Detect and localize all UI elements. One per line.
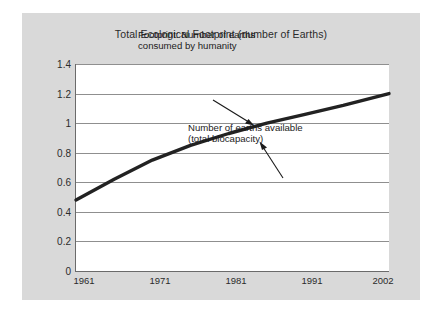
- biocapacity-annotation-arrow: [260, 142, 284, 179]
- ytick-label-0-8: 0.8: [57, 147, 71, 158]
- xtick-label-1991: 1991: [301, 275, 322, 286]
- footprint-curve: [76, 94, 389, 200]
- ytick-label-1-4: 1.4: [57, 59, 71, 70]
- chart-figure: Total Ecological Footprint (number of Ea…: [0, 0, 445, 314]
- plot-area: 1.4 1.2 1 0.8 0.6 0.4 0.2 0: [75, 64, 389, 272]
- biocapacity-annotation-line-2: (total biocapacity): [188, 133, 263, 144]
- ytick-label-0-4: 0.4: [57, 206, 71, 217]
- footprint-annotation-line-2: consumed by humanity: [138, 40, 237, 51]
- xtick-label-1961: 1961: [73, 275, 94, 286]
- xtick-label-2002: 2002: [372, 275, 393, 286]
- ytick-label-0-2: 0.2: [57, 236, 71, 247]
- xtick-label-1971: 1971: [149, 275, 170, 286]
- data-curve-layer: [76, 64, 389, 271]
- ytick-label-1-2: 1.2: [57, 88, 71, 99]
- ytick-label-1-0: 1: [65, 118, 71, 129]
- ytick-label-0-6: 0.6: [57, 177, 71, 188]
- chart-card: Total Ecological Footprint (number of Ea…: [22, 13, 420, 300]
- xtick-label-1981: 1981: [225, 275, 246, 286]
- footprint-annotation-line-1: Footprint: Number of earths: [138, 29, 255, 40]
- ytick-label-0: 0: [65, 266, 71, 277]
- footprint-annotation-label: Footprint: Number of earths consumed by …: [138, 29, 255, 52]
- biocapacity-annotation-label: Number of earths available (total biocap…: [188, 122, 303, 145]
- biocapacity-annotation-line-1: Number of earths available: [188, 122, 303, 133]
